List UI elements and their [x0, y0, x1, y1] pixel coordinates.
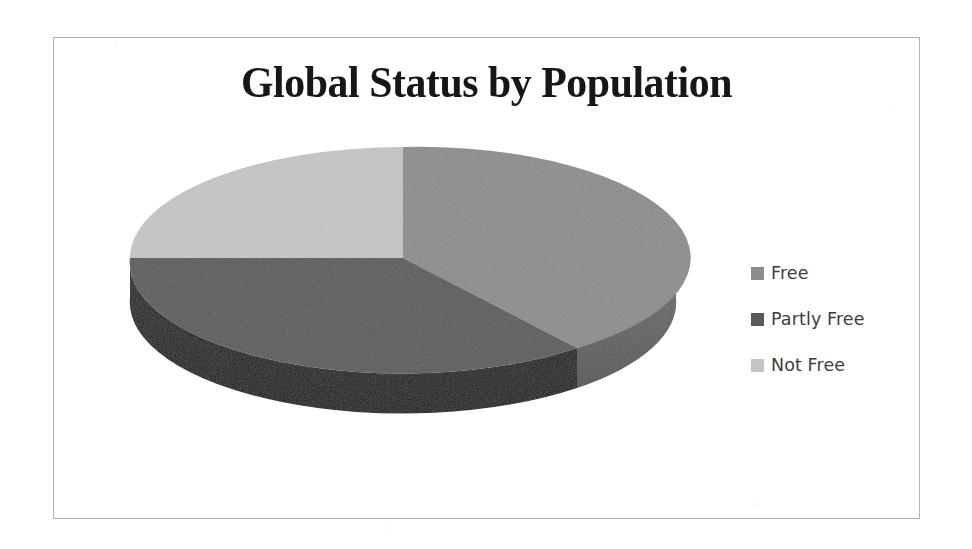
chart-title: Global Status by Population [83, 56, 889, 108]
legend-swatch-not-free [751, 359, 764, 372]
legend-label-free: Free [771, 263, 809, 283]
legend-label-partly-free: Partly Free [771, 309, 865, 329]
legend-swatch-partly-free [751, 313, 764, 326]
chart-image-canvas: Global Status by Population [0, 0, 972, 549]
legend-swatch-free [751, 267, 764, 280]
chart-legend: Free Partly Free Not Free [751, 250, 911, 388]
pie-chart-svg [120, 130, 700, 500]
pie-slice-not-free [130, 147, 403, 258]
pie-chart-graphic [120, 130, 700, 500]
legend-item-partly-free[interactable]: Partly Free [751, 296, 911, 342]
legend-item-not-free[interactable]: Not Free [751, 342, 911, 388]
legend-item-free[interactable]: Free [751, 250, 911, 296]
legend-label-not-free: Not Free [771, 355, 845, 375]
